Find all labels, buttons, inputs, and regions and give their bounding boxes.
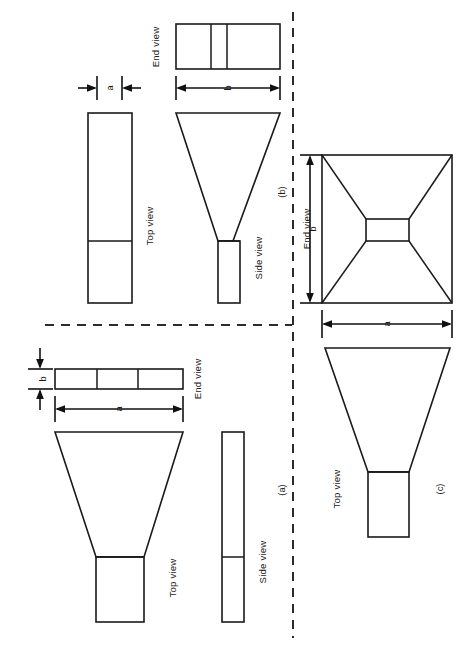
panel-c-top-view-shape	[325, 348, 450, 537]
dim-arrowhead-b-panel-a-top	[36, 359, 44, 369]
caption-panel-c: (c)	[434, 484, 445, 495]
side-view-trapezoid-b	[176, 113, 280, 241]
label-top-view-c: Top view	[331, 470, 342, 509]
dim-arrowhead-a-panel-a-left	[55, 405, 65, 413]
panel-c-end-view-shape	[322, 155, 452, 303]
dimension-a-panel-a: a	[55, 396, 183, 422]
top-view-outline-b	[88, 113, 132, 303]
label-side-view-b: Side view	[253, 237, 264, 280]
end-view-outline-a	[55, 369, 183, 389]
dimension-a-panel-b: a	[78, 76, 141, 100]
top-view-trapezoid-a	[55, 432, 183, 557]
figure-canvas: b End view a Top view	[0, 0, 467, 650]
end-view-outline-b	[176, 24, 280, 69]
panel-dividers	[45, 12, 293, 638]
panel-c: End view b a	[300, 155, 452, 537]
dim-arrowhead-a-panel-a-right	[173, 405, 183, 413]
dim-arrowhead-a-panel-b-2	[122, 84, 132, 92]
side-view-neck-b	[218, 241, 240, 303]
figure-root: b End view a Top view	[0, 0, 467, 650]
dim-label-b-panel-c: b	[308, 226, 318, 231]
top-view-trapezoid-c	[325, 348, 450, 472]
dim-arrowhead-b-panel-b-right	[270, 84, 280, 92]
panel-b-side-view-shape	[176, 113, 280, 303]
label-top-view-b: Top view	[144, 207, 155, 246]
panel-b-end-view-shape	[176, 24, 280, 69]
end-view-inner-rect-c	[366, 219, 409, 241]
dim-arrowhead-a-panel-c-right	[442, 320, 452, 328]
panel-b: b End view a Top view	[78, 24, 287, 303]
panel-a-top-view-shape	[55, 432, 183, 622]
dimension-a-panel-c: a	[322, 310, 452, 338]
dim-label-a-panel-a: a	[114, 406, 124, 412]
side-view-outline-a	[222, 432, 244, 622]
label-side-view-a: Side view	[257, 541, 268, 584]
label-top-view-a: Top view	[167, 559, 178, 598]
caption-panel-a: (a)	[276, 484, 287, 495]
dim-label-b-panel-a: b	[38, 376, 48, 381]
panel-a-end-view-shape	[55, 369, 183, 389]
dim-arrowhead-b-panel-c-bottom	[306, 293, 314, 303]
dim-label-a-panel-b: a	[105, 85, 115, 91]
dim-arrowhead-b-panel-b-left	[176, 84, 186, 92]
label-end-view-b: End view	[150, 27, 161, 68]
top-view-neck-c	[368, 472, 409, 537]
dim-label-b-panel-b: b	[223, 85, 233, 90]
dim-arrowhead-b-panel-c-top	[306, 155, 314, 165]
label-end-view-a: End view	[192, 359, 203, 400]
dimension-b-panel-b: b	[176, 76, 280, 100]
dim-label-a-panel-c: a	[382, 321, 392, 327]
panel-a: End view b a	[28, 348, 287, 622]
dim-arrowhead-a-panel-b-1	[87, 84, 97, 92]
panel-b-top-view-shape	[88, 113, 132, 303]
caption-panel-b: (b)	[276, 186, 287, 197]
top-view-neck-a	[96, 557, 144, 622]
dimension-b-panel-a: b	[28, 348, 53, 410]
panel-a-side-view-shape	[222, 432, 244, 622]
dim-arrowhead-b-panel-a-bottom	[36, 389, 44, 399]
dim-arrowhead-a-panel-c-left	[322, 320, 332, 328]
